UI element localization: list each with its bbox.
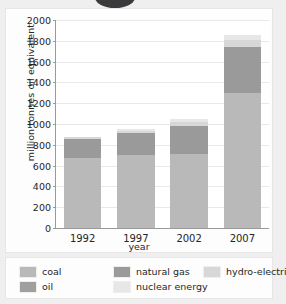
bar-segment-natural-gas [117, 133, 154, 155]
bar-segment-coal [117, 155, 154, 228]
bar-segment-coal [64, 158, 101, 228]
chart-page: million tonnes oil equivalent 0200400600… [0, 0, 286, 304]
bar-segment-hydro-electricity [224, 40, 261, 47]
chart-legend: coalnatural gashydro-electricityoilnucle… [6, 258, 272, 298]
bar-2007 [224, 35, 261, 228]
y-axis-tick-label: 1400 [27, 77, 51, 88]
bar-segment-natural-gas [64, 139, 101, 158]
legend-swatch-coal [20, 267, 36, 277]
y-axis-tick-label: 1200 [27, 98, 51, 109]
x-axis-title: year [6, 241, 272, 252]
chart-card: million tonnes oil equivalent 0200400600… [6, 9, 272, 252]
y-axis-tick-label: 600 [33, 160, 51, 171]
legend-swatch-hydro-electricity [204, 267, 220, 277]
bar-2002 [170, 119, 207, 228]
bar-segment-coal [224, 93, 261, 228]
legend-label: natural gas [136, 266, 190, 277]
legend-swatch-nuclear-energy [114, 282, 130, 292]
y-axis-tick-label: 1800 [27, 35, 51, 46]
legend-item-natural-gas: natural gas [114, 266, 190, 277]
bar-1992 [64, 137, 101, 228]
y-axis-tick-label: 800 [33, 139, 51, 150]
y-axis-tick-label: 0 [45, 223, 51, 234]
legend-label: coal [42, 266, 62, 277]
bar-segment-natural-gas [170, 126, 207, 154]
legend-label: oil [42, 281, 53, 292]
y-axis-tick-label: 400 [33, 181, 51, 192]
y-axis-tick-label: 200 [33, 202, 51, 213]
legend-label: hydro-electricity [226, 266, 286, 277]
y-axis-tick-label: 1600 [27, 56, 51, 67]
clipped-ellipse-decoration [95, 0, 135, 8]
legend-swatch-oil [20, 282, 36, 292]
y-axis-tick-mark [53, 228, 56, 229]
y-axis-tick-label: 1000 [27, 119, 51, 130]
legend-label: nuclear energy [136, 281, 208, 292]
bar-1997 [117, 129, 154, 228]
y-axis-tick-label: 2000 [27, 15, 51, 26]
bar-segment-natural-gas [224, 47, 261, 93]
legend-item-oil: oil [20, 281, 53, 292]
plot-area: 0200400600800100012001400160018002000 19… [55, 20, 269, 229]
legend-item-nuclear-energy: nuclear energy [114, 281, 208, 292]
legend-item-hydro-electricity: hydro-electricity [204, 266, 286, 277]
bar-segment-coal [170, 154, 207, 228]
bar-group [56, 20, 269, 228]
legend-swatch-natural-gas [114, 267, 130, 277]
legend-item-coal: coal [20, 266, 62, 277]
